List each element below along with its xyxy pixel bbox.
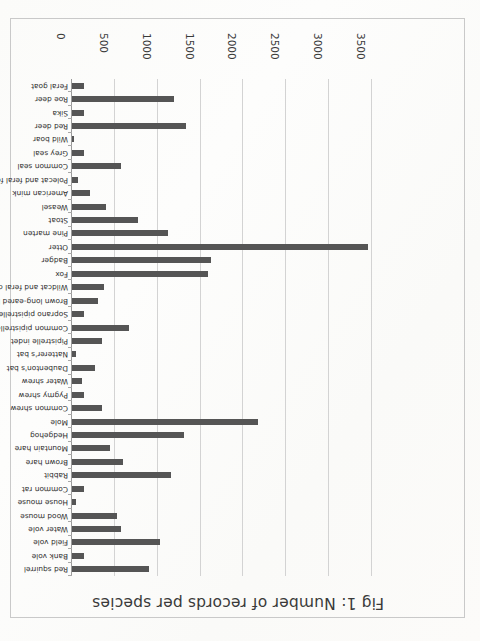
bar-row: Wildcat and feral cat — [72, 281, 372, 294]
category-label: Feral goat — [31, 82, 68, 90]
bar-row: Feral goat — [72, 79, 372, 92]
bar-row: Hedgehog — [72, 428, 372, 441]
bar-row: Brown long-eared bat — [72, 294, 372, 307]
bar-mole — [72, 419, 258, 425]
category-tick — [68, 347, 72, 348]
bar-pygmy-shrew — [72, 392, 84, 398]
category-label: Brown hare — [26, 458, 68, 466]
bar-common-seal — [72, 163, 121, 169]
category-tick — [68, 548, 72, 549]
category-label: Water vole — [28, 525, 68, 533]
category-tick — [68, 374, 72, 375]
category-tick — [68, 535, 72, 536]
bar-red-deer — [72, 123, 186, 129]
category-label: Wild boar — [33, 135, 68, 143]
bar-wildcat-and-feral-cat — [72, 284, 104, 290]
tick-label-0: 0 — [55, 33, 67, 40]
tick-label-1500: 1500 — [184, 33, 196, 60]
bar-row: Wild boar — [72, 133, 372, 146]
category-label: Common seal — [17, 162, 68, 170]
category-label: Red squirrel — [24, 565, 68, 573]
category-tick — [68, 575, 72, 576]
bar-bank-vole — [72, 553, 84, 559]
category-tick — [68, 185, 72, 186]
bar-chart-figure: Fig 1: Number of records per species Red… — [16, 24, 460, 612]
bar-brown-hare — [72, 459, 123, 465]
category-tick — [68, 508, 72, 509]
bar-wood-mouse — [72, 513, 117, 519]
bar-feral-goat — [72, 83, 84, 89]
category-label: Stoat — [48, 216, 68, 224]
bar-mountain-hare — [72, 445, 110, 451]
bar-row: Pygmy shrew — [72, 388, 372, 401]
category-label: Common rat — [22, 485, 68, 493]
bar-soprano-pipistrelle — [72, 311, 84, 317]
category-label: Pipistrelle indet — [11, 337, 68, 345]
bar-row: Bank vole — [72, 549, 372, 562]
bar-weasel — [72, 204, 106, 210]
category-tick — [68, 212, 72, 213]
bar-field-vole — [72, 539, 160, 545]
category-tick — [68, 468, 72, 469]
bar-row: Mole — [72, 415, 372, 428]
category-label: Polecat and feral ferret — [0, 176, 68, 184]
category-label: Otter — [49, 243, 68, 251]
bar-row: Weasel — [72, 200, 372, 213]
category-label: Grey seal — [33, 149, 68, 157]
bar-hedgehog — [72, 432, 184, 438]
plot-area: Red squirrelBank voleField voleWater vol… — [72, 79, 372, 576]
bar-brown-long-eared-bat — [72, 298, 98, 304]
category-label: Mountain hare — [15, 444, 68, 452]
category-tick — [68, 414, 72, 415]
category-label: Badger — [41, 256, 68, 264]
category-label: Pygmy shrew — [19, 391, 68, 399]
category-label: Roe deer — [35, 95, 68, 103]
bar-fox — [72, 271, 208, 277]
bar-row: Red squirrel — [72, 563, 372, 576]
bar-common-pipistrelle — [72, 325, 129, 331]
figure-rotation-wrapper: Fig 1: Number of records per species Red… — [16, 24, 460, 612]
category-label: Sika — [53, 109, 68, 117]
bar-row: Common rat — [72, 482, 372, 495]
tick-label-3500: 3500 — [355, 33, 367, 60]
category-label: Rabbit — [44, 471, 68, 479]
category-label: Common pipistrelle — [0, 324, 68, 332]
bar-row: Otter — [72, 240, 372, 253]
bar-row: Rabbit — [72, 469, 372, 482]
bar-row: American mink — [72, 186, 372, 199]
bar-rabbit — [72, 472, 171, 478]
bar-american-mink — [72, 190, 90, 196]
bar-row: Grey seal — [72, 146, 372, 159]
category-label: Soprano pipistrelle — [0, 310, 68, 318]
category-label: Hedgehog — [30, 431, 68, 439]
bar-common-shrew — [72, 405, 102, 411]
category-tick — [68, 306, 72, 307]
bar-otter — [72, 244, 368, 250]
bar-row: Badger — [72, 254, 372, 267]
bar-pine-marten — [72, 231, 168, 237]
bar-row: Water shrew — [72, 375, 372, 388]
category-tick — [68, 494, 72, 495]
category-label: Wood mouse — [20, 512, 68, 520]
bar-row: Water vole — [72, 522, 372, 535]
category-label: Field vole — [33, 538, 68, 546]
bar-house-mouse — [72, 499, 76, 505]
category-label: Daubenton's bat — [7, 364, 68, 372]
category-label: Red deer — [35, 122, 68, 130]
category-tick — [68, 562, 72, 563]
category-tick — [68, 320, 72, 321]
category-tick — [68, 226, 72, 227]
category-label: Natterer's bat — [17, 350, 68, 358]
category-label: House mouse — [18, 498, 68, 506]
category-label: Brown long-eared bat — [0, 297, 68, 305]
tick-label-1000: 1000 — [141, 33, 153, 60]
bar-row: House mouse — [72, 495, 372, 508]
category-label: Weasel — [42, 203, 68, 211]
category-label: Water shrew — [22, 377, 68, 385]
bar-row: Soprano pipistrelle — [72, 307, 372, 320]
chart-title: Fig 1: Number of records per species — [16, 594, 460, 612]
category-tick — [68, 280, 72, 281]
bar-row: Red deer — [72, 119, 372, 132]
bar-red-squirrel — [72, 566, 149, 572]
category-tick — [68, 118, 72, 119]
